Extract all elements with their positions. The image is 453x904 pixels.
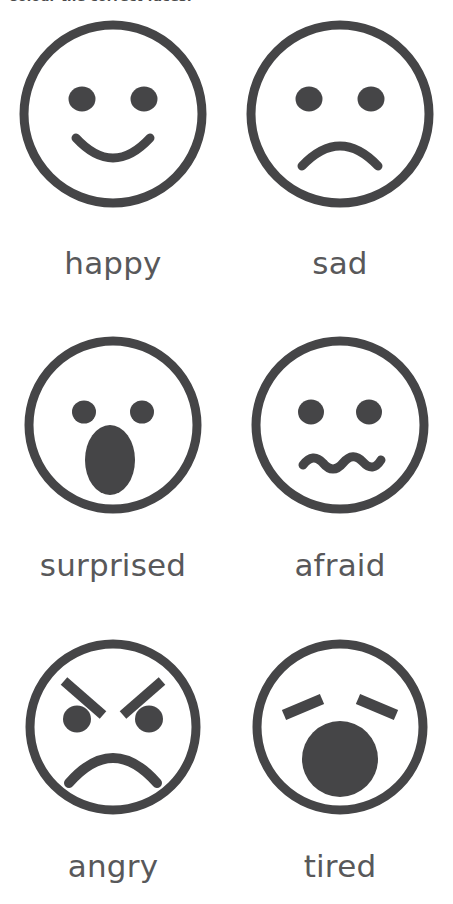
face-label-afraid: afraid (227, 550, 453, 581)
surprised-face-icon[interactable] (18, 330, 208, 520)
face-card-angry[interactable]: angry (0, 633, 226, 882)
face-card-sad[interactable]: sad (227, 14, 453, 279)
sad-face-icon[interactable] (240, 14, 440, 214)
face-card-tired[interactable]: tired (227, 633, 453, 882)
tired-face-icon[interactable] (246, 633, 434, 821)
emotion-face-grid: happy sad surprised afraid (0, 0, 453, 904)
face-label-surprised: surprised (0, 550, 226, 581)
afraid-face-icon[interactable] (245, 330, 435, 520)
face-card-surprised[interactable]: surprised (0, 330, 226, 581)
face-label-happy: happy (0, 248, 226, 279)
happy-face-icon[interactable] (13, 14, 213, 214)
face-label-sad: sad (227, 248, 453, 279)
angry-face-icon[interactable] (19, 633, 207, 821)
face-label-tired: tired (227, 851, 453, 882)
face-card-afraid[interactable]: afraid (227, 330, 453, 581)
face-card-happy[interactable]: happy (0, 14, 226, 279)
face-label-angry: angry (0, 851, 226, 882)
